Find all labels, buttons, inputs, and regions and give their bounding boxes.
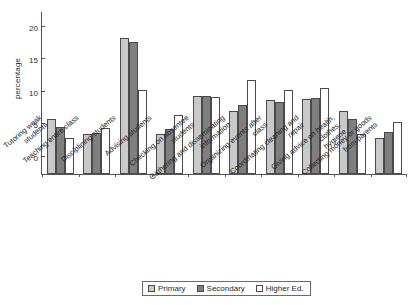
legend-item: Higher Ed.: [256, 284, 304, 293]
legend-swatch-secondary: [197, 285, 204, 292]
bar-secondary: [384, 132, 393, 174]
y-tick-15: 15: [29, 49, 42, 67]
y-axis-title: percentage: [13, 34, 22, 124]
y-tick-label: 15: [29, 56, 42, 65]
legend-item: Secondary: [197, 284, 245, 293]
legend-item: Primary: [148, 284, 186, 293]
bar-group: [371, 12, 408, 174]
y-tick-label: 10: [29, 89, 42, 98]
legend-label: Higher Ed.: [266, 284, 304, 293]
bar-chart: percentage 0510152025 Tutoring weak stud…: [0, 0, 411, 305]
y-tick-10: 10: [29, 82, 42, 100]
y-tick-label: 20: [29, 24, 42, 33]
legend-label: Secondary: [207, 284, 245, 293]
legend: PrimarySecondaryHigher Ed.: [142, 281, 311, 296]
y-tick-20: 20: [29, 17, 42, 35]
legend-swatch-higher: [256, 285, 263, 292]
x-axis-labels: Tutoring weak studentsTeaching entire cl…: [41, 177, 407, 277]
bar-primary: [375, 138, 384, 175]
legend-label: Primary: [158, 284, 186, 293]
legend-swatch-primary: [148, 285, 155, 292]
bar-higher: [393, 122, 402, 174]
bar-primary: [120, 38, 129, 174]
y-tick-25: 25: [29, 0, 42, 2]
